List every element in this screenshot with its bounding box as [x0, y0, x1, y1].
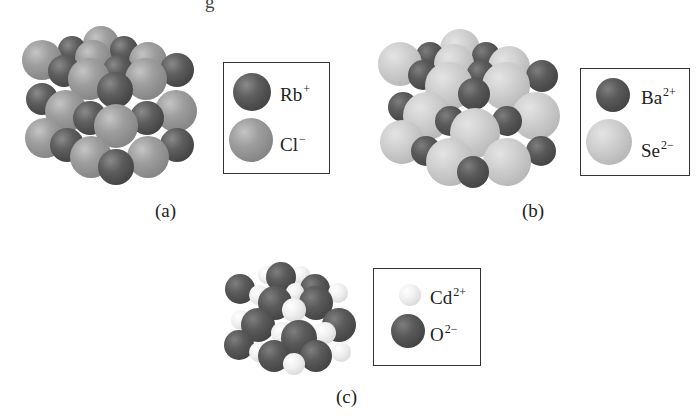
legend-c: Cd2+ O2−	[373, 268, 481, 366]
o-legend-label: O2−	[430, 323, 458, 344]
se-ion-sphere	[483, 138, 531, 186]
o-legend-sphere	[391, 314, 425, 348]
cl-legend-label: Cl−	[280, 133, 306, 154]
cd-ion-sphere	[282, 298, 306, 322]
ba-ion-sphere	[458, 78, 490, 110]
caption-c: (c)	[336, 386, 357, 408]
legend-a: Rb+ Cl−	[223, 62, 330, 174]
rb-ion-sphere	[97, 72, 133, 108]
cd-ion-sphere	[283, 353, 305, 375]
ba-ion-sphere	[457, 156, 489, 188]
ba-ion-sphere	[526, 60, 558, 92]
se-legend-sphere	[586, 119, 632, 165]
cl-legend-sphere	[229, 118, 273, 162]
crystal-lattice-rbcl	[0, 0, 210, 190]
crystal-lattice-cdo	[220, 258, 360, 373]
cd-legend-sphere	[399, 284, 421, 306]
caption-b: (b)	[522, 200, 544, 222]
caption-a: (a)	[155, 200, 176, 222]
rb-legend-sphere	[233, 73, 271, 111]
rb-legend-label: Rb+	[280, 83, 310, 104]
crystal-lattice-base	[370, 20, 560, 190]
legend-b: Ba2+ Se2−	[580, 68, 690, 176]
se-legend-label: Se2−	[641, 139, 674, 160]
ba-legend-label: Ba2+	[641, 86, 676, 107]
ba-legend-sphere	[596, 78, 630, 112]
o-ion-sphere	[300, 340, 332, 372]
cd-ion-sphere	[331, 342, 351, 362]
cd-legend-label: Cd2+	[430, 286, 466, 307]
rb-ion-sphere	[98, 149, 134, 185]
